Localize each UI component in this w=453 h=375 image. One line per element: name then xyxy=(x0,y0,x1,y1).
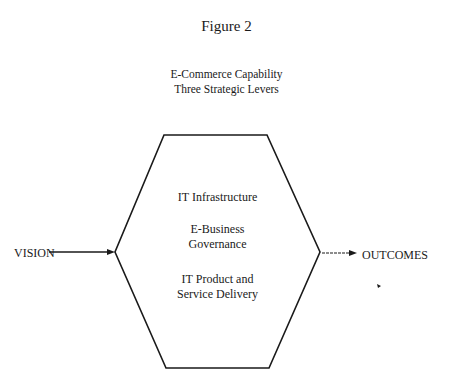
outcomes-arrow xyxy=(322,250,357,256)
diagram-subtitle-line1: E-Commerce Capability xyxy=(0,68,453,80)
vision-label: VISION xyxy=(14,246,55,261)
vision-arrow xyxy=(49,249,115,255)
diagram-subtitle-line2: Three Strategic Levers xyxy=(0,83,453,95)
stray-mark xyxy=(377,284,381,288)
lever-label-line2: Governance xyxy=(115,237,320,252)
lever-e-business-governance: E-Business Governance xyxy=(115,222,320,252)
lever-label: IT Infrastructure xyxy=(115,190,320,205)
lever-label-line2: Service Delivery xyxy=(115,287,320,302)
lever-label-line1: E-Business xyxy=(115,222,320,237)
lever-label-line1: IT Product and xyxy=(115,272,320,287)
outcomes-label: OUTCOMES xyxy=(362,248,428,263)
diagram-canvas xyxy=(0,0,453,375)
lever-it-infrastructure: IT Infrastructure xyxy=(115,190,320,205)
figure-title: Figure 2 xyxy=(0,18,453,35)
lever-it-product-service-delivery: IT Product and Service Delivery xyxy=(115,272,320,302)
